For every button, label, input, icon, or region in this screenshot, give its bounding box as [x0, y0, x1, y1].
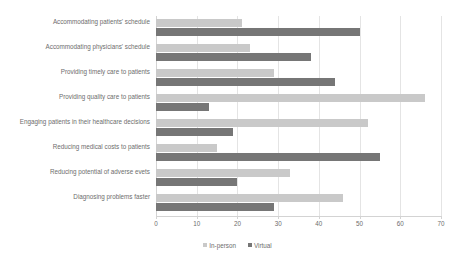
bar-virtual [156, 178, 237, 186]
bar-virtual [156, 103, 209, 111]
bar-in-person [156, 69, 274, 77]
x-tick-0 [156, 216, 157, 219]
x-axis-line [156, 216, 441, 217]
category-label: Engaging patients in their healthcare de… [0, 117, 150, 126]
bar-in-person [156, 144, 217, 152]
bar-in-person [156, 44, 250, 52]
bar-virtual [156, 78, 335, 86]
category-label: Diagnosing problems faster [0, 192, 150, 201]
bar-virtual [156, 203, 274, 211]
gridline-70 [441, 16, 442, 216]
category-label: Reducing potential of adverse evets [0, 167, 150, 176]
x-tick-label: 20 [234, 220, 241, 228]
bar-virtual [156, 28, 360, 36]
legend-swatch-icon [248, 243, 252, 247]
category-row: Reducing potential of adverse evets [156, 166, 441, 191]
x-tick-label: 30 [275, 220, 282, 228]
category-label: Accommodating patients' schedule [0, 17, 150, 26]
x-tick-label: 10 [193, 220, 200, 228]
legend-swatch-icon [203, 243, 207, 247]
x-axis: 010203040506070 [156, 216, 441, 230]
x-tick-70 [441, 216, 442, 219]
category-label: Providing timely care to patients [0, 67, 150, 76]
x-tick-label: 0 [154, 220, 158, 228]
bar-virtual [156, 53, 311, 61]
category-label: Providing quality care to patients [0, 92, 150, 101]
x-tick-10 [197, 216, 198, 219]
bar-chart: Accommodating patients' scheduleAccommod… [0, 0, 475, 263]
category-row: Engaging patients in their healthcare de… [156, 116, 441, 141]
chart-legend: In-personVirtual [0, 240, 475, 250]
category-row: Providing quality care to patients [156, 91, 441, 116]
category-label: Accommodating physicians' schedule [0, 42, 150, 51]
x-tick-40 [319, 216, 320, 219]
bar-in-person [156, 194, 343, 202]
legend-label: Virtual [254, 241, 272, 250]
x-tick-30 [278, 216, 279, 219]
legend-item-virtual[interactable]: Virtual [248, 240, 272, 250]
bar-in-person [156, 94, 425, 102]
category-row: Reducing medical costs to patients [156, 141, 441, 166]
legend-item-in-person[interactable]: In-person [203, 240, 236, 250]
x-tick-label: 40 [315, 220, 322, 228]
bar-in-person [156, 19, 242, 27]
category-row: Accommodating physicians' schedule [156, 41, 441, 66]
x-tick-20 [237, 216, 238, 219]
x-tick-60 [400, 216, 401, 219]
plot-area: Accommodating patients' scheduleAccommod… [156, 16, 441, 216]
bar-in-person [156, 119, 368, 127]
bar-virtual [156, 128, 233, 136]
category-row: Accommodating patients' schedule [156, 16, 441, 41]
x-tick-50 [360, 216, 361, 219]
x-tick-label: 50 [356, 220, 363, 228]
bar-in-person [156, 169, 290, 177]
category-row: Diagnosing problems faster [156, 191, 441, 216]
legend-label: In-person [209, 241, 236, 250]
x-tick-label: 60 [397, 220, 404, 228]
x-tick-label: 70 [437, 220, 444, 228]
category-row: Providing timely care to patients [156, 66, 441, 91]
category-label: Reducing medical costs to patients [0, 142, 150, 151]
bar-virtual [156, 153, 380, 161]
